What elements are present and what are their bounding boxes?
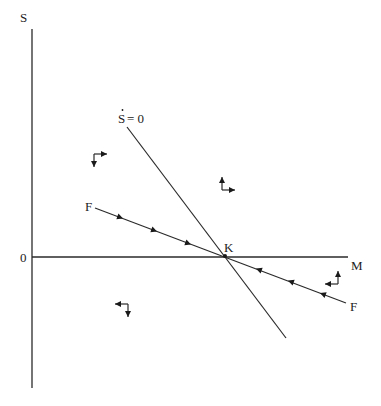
saddle-path-f [95, 208, 346, 303]
phase-diagram: S 0 M S = 0 F F K [0, 0, 381, 406]
saddle-path-label-right: F [350, 299, 357, 314]
arrow-down-icon [91, 161, 97, 167]
arrow-right-icon [229, 187, 235, 193]
arrow-up-icon [335, 271, 341, 277]
saddle-path-label-left: F [85, 199, 92, 214]
equilibrium-label-k: K [224, 240, 234, 255]
axis-label-s: S [20, 10, 27, 25]
axis-label-m: M [351, 258, 363, 273]
arrow-up-icon [219, 177, 225, 183]
s-dot-zero-line [127, 127, 286, 338]
direction-marker-upper-right [219, 177, 235, 193]
s-dot-zero-label: S = 0 [118, 109, 144, 126]
origin-label: 0 [20, 250, 27, 265]
time-derivative-dot [122, 109, 124, 111]
s-dot-zero-rest: = 0 [127, 111, 144, 126]
direction-markers [91, 151, 341, 317]
arrow-left-icon [115, 301, 121, 307]
s-dot-zero-var: S [118, 111, 125, 126]
direction-marker-upper-left [91, 151, 107, 167]
arrow-right-icon [101, 151, 107, 157]
arrow-down-icon [125, 311, 131, 317]
arrow-left-icon [325, 281, 331, 287]
direction-marker-lower-right [325, 271, 341, 287]
direction-marker-lower-left [115, 301, 131, 317]
